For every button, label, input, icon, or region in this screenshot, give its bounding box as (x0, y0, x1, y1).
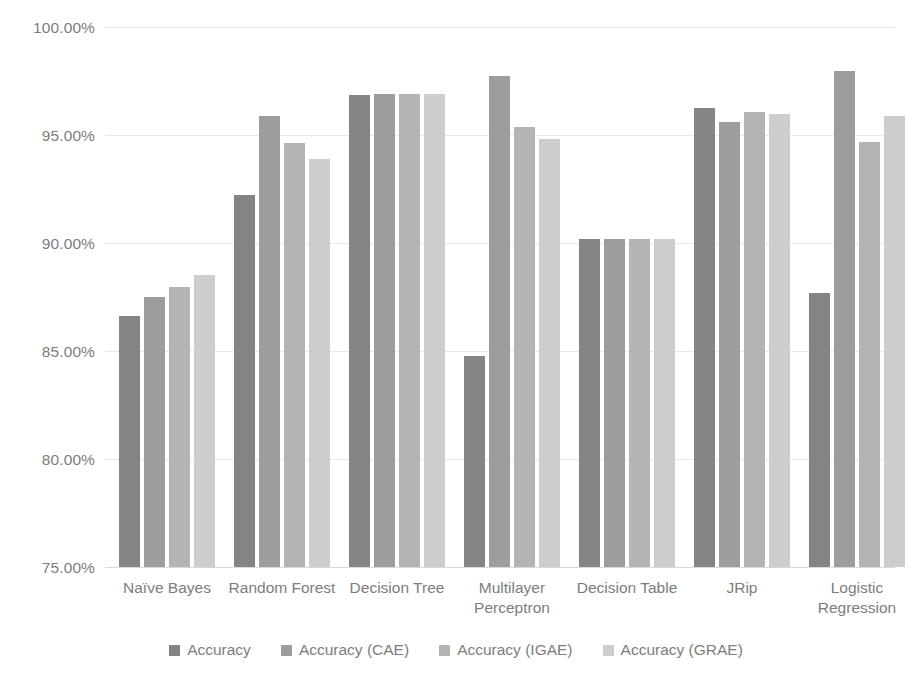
bar[interactable] (539, 139, 560, 567)
bar[interactable] (144, 297, 165, 567)
y-tick-label: 85.00% (0, 344, 95, 360)
bar[interactable] (284, 143, 305, 567)
bar-group (119, 27, 219, 567)
bar[interactable] (309, 159, 330, 567)
bar[interactable] (234, 195, 255, 567)
bar[interactable] (194, 275, 215, 567)
legend-label: Accuracy (CAE) (299, 641, 409, 659)
bar[interactable] (744, 112, 765, 567)
x-axis-category-label: JRip (677, 578, 807, 598)
bar[interactable] (579, 239, 600, 567)
bar[interactable] (464, 356, 485, 567)
y-tick-label: 75.00% (0, 560, 95, 576)
bar-group (809, 27, 909, 567)
legend-swatch-icon (281, 645, 292, 656)
x-axis-category-label: Naïve Bayes (102, 578, 232, 598)
bar-group (349, 27, 449, 567)
bar[interactable] (399, 94, 420, 567)
bar[interactable] (769, 114, 790, 567)
bar[interactable] (884, 116, 905, 567)
bar-group (579, 27, 679, 567)
bar-group (694, 27, 794, 567)
y-tick-label: 80.00% (0, 452, 95, 468)
chart-legend: AccuracyAccuracy (CAE)Accuracy (IGAE)Acc… (0, 641, 912, 659)
bar[interactable] (809, 293, 830, 567)
legend-swatch-icon (439, 645, 450, 656)
bar[interactable] (654, 239, 675, 567)
y-tick-label: 95.00% (0, 128, 95, 144)
legend-item[interactable]: Accuracy (GRAE) (603, 641, 743, 659)
bar[interactable] (489, 76, 510, 567)
bar[interactable] (604, 239, 625, 567)
legend-item[interactable]: Accuracy (169, 641, 251, 659)
bar[interactable] (119, 316, 140, 567)
bar[interactable] (629, 239, 650, 567)
x-axis-baseline (105, 567, 895, 568)
x-axis-category-label: Decision Table (562, 578, 692, 598)
legend-item[interactable]: Accuracy (IGAE) (439, 641, 572, 659)
bar[interactable] (424, 94, 445, 567)
bar[interactable] (694, 108, 715, 567)
bar[interactable] (374, 94, 395, 567)
bar-chart: 100.00% 95.00% 90.00% 85.00% 80.00% 75.0… (0, 0, 912, 683)
bar-group (234, 27, 334, 567)
legend-label: Accuracy (IGAE) (457, 641, 572, 659)
x-axis-category-label: Multilayer Perceptron (447, 578, 577, 618)
y-tick-label: 90.00% (0, 236, 95, 252)
bar[interactable] (719, 122, 740, 567)
legend-label: Accuracy (GRAE) (621, 641, 743, 659)
x-axis-category-label: Logistic Regression (792, 578, 912, 618)
bar[interactable] (834, 71, 855, 567)
plot-area (105, 27, 895, 567)
x-axis-category-label: Random Forest (217, 578, 347, 598)
legend-swatch-icon (603, 645, 614, 656)
bar[interactable] (169, 287, 190, 567)
bar[interactable] (259, 116, 280, 567)
y-tick-label: 100.00% (0, 20, 95, 36)
legend-swatch-icon (169, 645, 180, 656)
bar[interactable] (859, 142, 880, 567)
legend-item[interactable]: Accuracy (CAE) (281, 641, 409, 659)
x-axis-category-label: Decision Tree (332, 578, 462, 598)
bar[interactable] (349, 95, 370, 567)
bar[interactable] (514, 127, 535, 567)
legend-label: Accuracy (187, 641, 251, 659)
bar-group (464, 27, 564, 567)
